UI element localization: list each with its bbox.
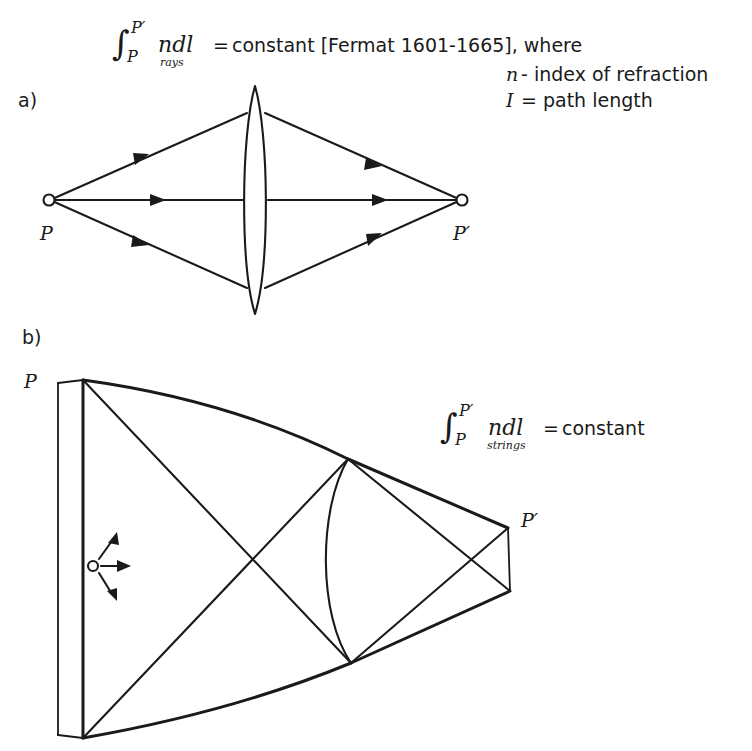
integrand-rays: ndl	[158, 32, 193, 57]
figure-background	[0, 0, 752, 751]
integral-subscript-rays: rays	[160, 56, 184, 69]
fermat-principle-figure: ∫ P′ P ndl rays = constant [Fermat 1601-…	[0, 0, 752, 751]
bead-circle	[88, 561, 98, 571]
legend-symbol-n: n	[506, 63, 518, 85]
equals-sign-strings: =	[543, 417, 559, 439]
panel-a-label: a)	[18, 89, 37, 111]
equals-sign-rays: =	[213, 34, 229, 56]
integral-upper-limit-rays: P′	[130, 18, 146, 37]
formula-rays-right-side: constant [Fermat 1601-1665], where	[232, 34, 582, 56]
legend-text-path-length: = path length	[521, 89, 653, 111]
point-p-label: P	[39, 222, 54, 244]
point-pprime-label: P′	[452, 222, 471, 244]
legend-text-refraction: - index of refraction	[521, 63, 708, 85]
formula-strings-right-side: constant	[562, 417, 645, 439]
panel-b-label: b)	[22, 326, 41, 348]
integral-lower-limit-rays: P	[126, 47, 138, 66]
point-pprime-marker	[457, 195, 468, 206]
panel-b-point-pprime-label: P′	[520, 509, 539, 531]
integral-upper-limit-strings: P′	[458, 401, 474, 420]
point-p-marker	[44, 195, 55, 206]
panel-b-point-p-label: P	[23, 370, 38, 392]
integrand-strings: ndl	[488, 415, 523, 440]
integral-subscript-strings: strings	[487, 439, 526, 452]
legend-symbol-I: I	[505, 89, 514, 111]
integral-lower-limit-strings: P	[454, 430, 466, 449]
